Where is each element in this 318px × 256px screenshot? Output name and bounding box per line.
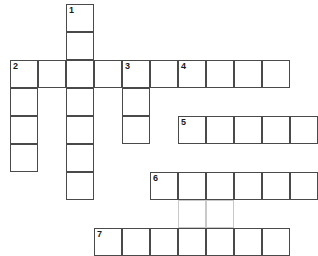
crossword-cell[interactable]: [290, 172, 318, 200]
crossword-cell[interactable]: [66, 116, 94, 144]
crossword-cell[interactable]: [38, 60, 66, 88]
crossword-cell[interactable]: [66, 32, 94, 60]
crossword-cell[interactable]: [290, 116, 318, 144]
crossword-cell[interactable]: [206, 116, 234, 144]
crossword-cell[interactable]: [122, 116, 150, 144]
crossword-cell[interactable]: [178, 172, 206, 200]
crossword-guide-cell: [178, 200, 206, 228]
crossword-cell[interactable]: 5: [178, 116, 206, 144]
crossword-cell[interactable]: [234, 172, 262, 200]
crossword-cell[interactable]: [262, 116, 290, 144]
crossword-cell[interactable]: [262, 228, 290, 256]
clue-number: 3: [125, 61, 130, 72]
crossword-cell[interactable]: [10, 144, 38, 172]
crossword-cell[interactable]: [10, 88, 38, 116]
crossword-cell[interactable]: [150, 60, 178, 88]
clue-number: 7: [97, 229, 102, 240]
crossword-cell[interactable]: 2: [10, 60, 38, 88]
crossword-cell[interactable]: [234, 116, 262, 144]
crossword-cell[interactable]: [122, 228, 150, 256]
crossword-cell[interactable]: 3: [122, 60, 150, 88]
crossword-cell[interactable]: 1: [66, 4, 94, 32]
crossword-cell[interactable]: [150, 228, 178, 256]
crossword-cell[interactable]: [66, 144, 94, 172]
crossword-guide-cell: [206, 200, 234, 228]
clue-number: 2: [13, 61, 18, 72]
crossword-cell[interactable]: [66, 88, 94, 116]
crossword-cell[interactable]: [66, 172, 94, 200]
clue-number: 1: [69, 5, 74, 16]
crossword-cell[interactable]: [262, 172, 290, 200]
crossword-cell[interactable]: [94, 60, 122, 88]
crossword-cell[interactable]: [178, 228, 206, 256]
crossword-cell[interactable]: [206, 172, 234, 200]
clue-number: 6: [153, 173, 158, 184]
crossword-cell[interactable]: 4: [178, 60, 206, 88]
crossword-cell[interactable]: [262, 60, 290, 88]
crossword-cell[interactable]: [10, 116, 38, 144]
crossword-cell[interactable]: [234, 228, 262, 256]
crossword-cell[interactable]: 7: [94, 228, 122, 256]
crossword-cell[interactable]: 6: [150, 172, 178, 200]
crossword-cell[interactable]: [206, 228, 234, 256]
clue-number: 4: [181, 61, 186, 72]
crossword-cell[interactable]: [66, 60, 94, 88]
crossword-cell[interactable]: [206, 60, 234, 88]
crossword-cell[interactable]: [122, 88, 150, 116]
clue-number: 5: [181, 117, 186, 128]
crossword-cell[interactable]: [234, 60, 262, 88]
